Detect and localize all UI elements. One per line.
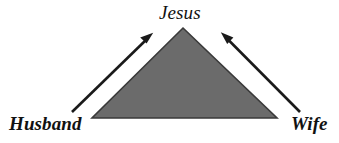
right-label-wife: Wife: [291, 114, 328, 133]
apex-label-jesus: Jesus: [159, 3, 201, 22]
diagram-canvas: Jesus Husband Wife: [0, 0, 339, 143]
triangle-shape: [92, 28, 277, 118]
left-label-husband: Husband: [9, 114, 82, 133]
